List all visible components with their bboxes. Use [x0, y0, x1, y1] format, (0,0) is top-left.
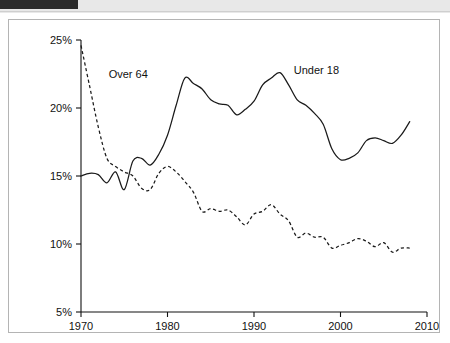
- series-line-under-18: [81, 72, 410, 189]
- series-annotations: Over 64Under 18: [109, 64, 339, 80]
- poverty-rate-line-chart: 5%10%15%20%25% 19701980199020002010 Over…: [9, 20, 439, 332]
- x-axis: 19701980199020002010: [69, 312, 439, 332]
- y-tick-label: 25%: [50, 34, 72, 46]
- figure-number-tab: [0, 0, 78, 9]
- y-tick-label: 20%: [50, 102, 72, 114]
- y-axis: 5%10%15%20%25%: [50, 34, 81, 318]
- series-annotation-over-64: Over 64: [109, 68, 148, 80]
- x-tick-label: 2000: [328, 320, 352, 332]
- figure-header-bar: [0, 0, 450, 13]
- y-tick-label: 5%: [56, 306, 72, 318]
- header-divider: [0, 11, 450, 12]
- x-tick-label: 1970: [69, 320, 93, 332]
- series-annotation-under-18: Under 18: [294, 64, 339, 76]
- y-tick-label: 15%: [50, 170, 72, 182]
- y-tick-label: 10%: [50, 238, 72, 250]
- x-tick-label: 1980: [155, 320, 179, 332]
- figure-frame: 5%10%15%20%25% 19701980199020002010 Over…: [8, 19, 440, 333]
- x-tick-label: 1990: [242, 320, 266, 332]
- y-axis-ticks: 5%10%15%20%25%: [50, 34, 81, 318]
- x-tick-label: 2010: [415, 320, 439, 332]
- x-axis-ticks: 19701980199020002010: [69, 312, 439, 332]
